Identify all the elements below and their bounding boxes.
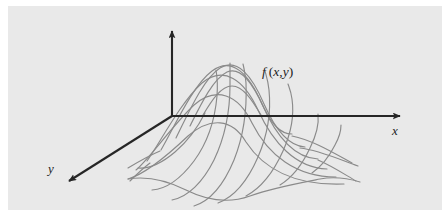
surface-plot-svg: f(x,y) x y: [0, 0, 448, 216]
y-axis-label: y: [46, 161, 54, 176]
mesh-line-u-1: [203, 86, 261, 115]
surface-mesh: [128, 63, 360, 206]
mesh-line-u-5: [147, 75, 327, 169]
function-label-y: y: [281, 64, 289, 79]
y-axis-line: [69, 116, 172, 181]
figure-root: f(x,y) x y: [0, 0, 448, 216]
function-label-x: x: [272, 64, 279, 79]
mesh-line-v-4: [194, 64, 246, 206]
mesh-tail-right-2: [292, 136, 352, 163]
function-label-close-paren: ): [289, 64, 294, 79]
x-axis-label: x: [391, 123, 398, 138]
